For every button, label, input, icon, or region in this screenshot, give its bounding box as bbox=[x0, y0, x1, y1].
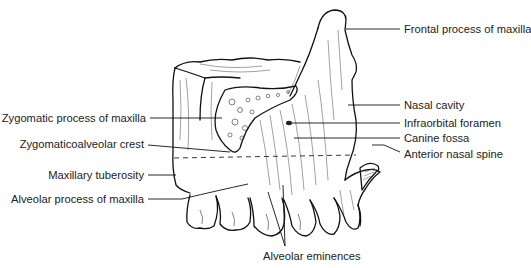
label-infraorbital-foramen: Infraorbital foramen bbox=[404, 117, 501, 130]
label-anterior-nasal-spine: Anterior nasal spine bbox=[404, 148, 503, 161]
leader-zygomaticoalveolar-crest bbox=[148, 145, 230, 152]
surface-hatching bbox=[180, 30, 375, 215]
leader-anterior-nasal-spine bbox=[372, 145, 400, 152]
label-zygomatic-process: Zygomatic process of maxilla bbox=[2, 112, 146, 125]
leader-alveolar-process bbox=[148, 184, 248, 199]
leader-lines bbox=[148, 29, 400, 246]
label-nasal-cavity: Nasal cavity bbox=[404, 99, 464, 112]
label-maxillary-tuberosity: Maxillary tuberosity bbox=[48, 169, 144, 182]
dashed-reference-line bbox=[174, 155, 356, 158]
label-alveolar-eminences: Alveolar eminences bbox=[263, 250, 361, 263]
label-canine-fossa: Canine fossa bbox=[404, 132, 469, 145]
label-alveolar-process: Alveolar process of maxilla bbox=[11, 193, 144, 206]
teeth-row bbox=[187, 195, 360, 236]
label-frontal-process: Frontal process of maxilla bbox=[404, 23, 531, 36]
label-zygomaticoalveolar-crest: Zygomaticoalveolar crest bbox=[20, 138, 144, 151]
infraorbital-foramen-mark bbox=[286, 121, 292, 125]
